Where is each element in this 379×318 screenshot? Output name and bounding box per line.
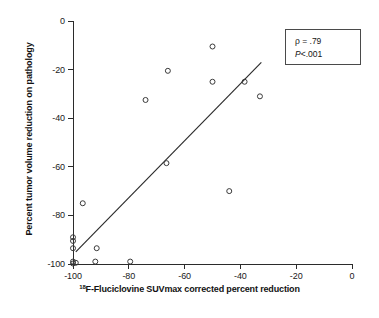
x-axis-ticks	[73, 264, 352, 269]
y-tick-label: 0	[31, 16, 65, 26]
data-point-marker	[257, 94, 262, 99]
x-axis-title-text: F-Fluciclovine SUVmax corrected percent …	[86, 284, 300, 294]
x-tick-label: -100	[64, 271, 82, 281]
data-point-marker	[93, 259, 98, 264]
statistics-box: ρ = .79 P<.001	[285, 29, 361, 65]
x-axis-title: 18F-Fluciclovine SUVmax corrected percen…	[0, 284, 379, 294]
y-axis-ticks	[68, 21, 73, 264]
data-point-marker	[210, 79, 215, 84]
data-point-marker	[227, 189, 232, 194]
data-point-marker	[128, 259, 133, 264]
y-tick-label: -20	[31, 65, 65, 75]
data-point-marker	[165, 68, 170, 73]
rho-statistic: ρ = .79	[295, 35, 360, 48]
data-points	[71, 44, 263, 266]
data-point-marker	[210, 44, 215, 49]
scatter-plot-figure: Percent tumor volume reduction on pathol…	[0, 0, 379, 318]
p-value-statistic: P<.001	[295, 48, 360, 61]
y-tick-label: -40	[31, 113, 65, 123]
x-tick-label: 0	[350, 271, 355, 281]
data-point-marker	[164, 161, 169, 166]
y-tick-label: -80	[31, 210, 65, 220]
p-value-text: <.001	[301, 49, 323, 59]
data-point-marker	[94, 246, 99, 251]
x-tick-label: -40	[234, 271, 247, 281]
x-tick-label: -80	[122, 271, 135, 281]
x-tick-label: -20	[290, 271, 303, 281]
regression-line	[76, 62, 262, 252]
data-point-marker	[80, 201, 85, 206]
y-axis-title: Percent tumor volume reduction on pathol…	[24, 14, 34, 264]
y-tick-label: -100	[31, 259, 65, 269]
x-tick-label: -60	[178, 271, 191, 281]
data-point-marker	[143, 97, 148, 102]
y-tick-label: -60	[31, 162, 65, 172]
